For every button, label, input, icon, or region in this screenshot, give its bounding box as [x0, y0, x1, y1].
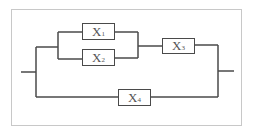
component-x1-label: X	[92, 24, 101, 40]
component-x3-subscript: 3	[181, 44, 185, 52]
component-x4-label: X	[128, 90, 137, 106]
component-x2-label: X	[92, 50, 101, 66]
component-x2-subscript: 2	[101, 56, 105, 64]
connection-wires	[0, 0, 254, 130]
component-x3-label: X	[172, 38, 181, 54]
component-x4-subscript: 4	[137, 96, 141, 104]
component-x1-subscript: 1	[101, 30, 105, 38]
component-x1: X1	[82, 23, 115, 40]
component-x4: X4	[118, 89, 151, 106]
component-x2: X2	[82, 49, 115, 66]
component-x3: X3	[162, 38, 195, 54]
